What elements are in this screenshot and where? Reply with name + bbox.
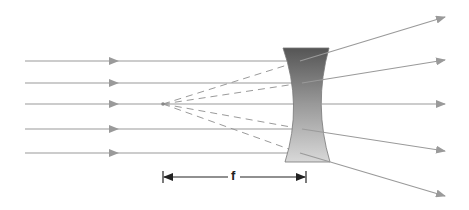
incident-rays xyxy=(25,61,302,153)
virtual-rays xyxy=(163,61,302,153)
focal-point xyxy=(161,102,165,106)
virtual-ray-4 xyxy=(163,104,302,129)
focal-length-label: f xyxy=(228,169,238,183)
refracted-rays xyxy=(300,17,445,196)
refracted-ray-1 xyxy=(300,17,445,61)
virtual-ray-2 xyxy=(163,83,302,104)
concave-lens xyxy=(283,48,330,162)
refracted-ray-5 xyxy=(300,153,445,196)
